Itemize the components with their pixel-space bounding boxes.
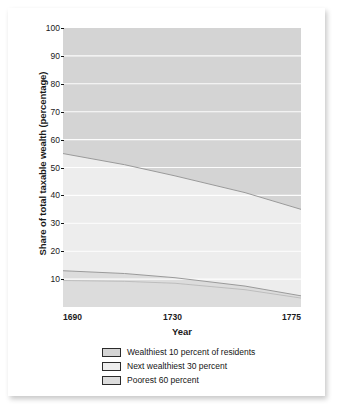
y-tick-label-20: 20 — [36, 247, 60, 256]
y-tick-mark-20 — [61, 251, 64, 252]
y-tick-mark-90 — [61, 56, 64, 57]
figure-card: Share of total taxable wealth (percentag… — [8, 8, 325, 396]
y-tick-label-60: 60 — [36, 136, 60, 145]
legend-item: Poorest 60 percent — [102, 374, 312, 387]
y-tick-label-10: 10 — [36, 275, 60, 284]
y-tick-mark-40 — [61, 195, 64, 196]
legend-item: Wealthiest 10 percent of residents — [102, 346, 312, 359]
legend-item: Next wealthiest 30 percent — [102, 360, 312, 373]
y-axis-ticks: 100908070605040302010 — [34, 28, 60, 307]
y-tick-label-100: 100 — [36, 24, 60, 33]
legend-label: Poorest 60 percent — [127, 376, 199, 385]
legend-swatch-icon — [102, 376, 121, 385]
y-tick-mark-60 — [61, 140, 64, 141]
y-tick-mark-50 — [61, 168, 64, 169]
y-tick-label-30: 30 — [36, 219, 60, 228]
legend-label: Wealthiest 10 percent of residents — [127, 348, 255, 357]
y-tick-mark-30 — [61, 223, 64, 224]
legend-swatch-icon — [102, 348, 121, 357]
x-axis-ticks: 169017301775 — [63, 310, 301, 324]
x-tick-label-1775: 1775 — [282, 312, 301, 322]
y-tick-mark-100 — [61, 28, 64, 29]
chart-plot-area — [63, 28, 301, 307]
x-tick-label-1690: 1690 — [63, 312, 82, 322]
y-tick-label-40: 40 — [36, 191, 60, 200]
x-tick-label-1730: 1730 — [163, 312, 182, 322]
y-tick-label-80: 80 — [36, 80, 60, 89]
legend-label: Next wealthiest 30 percent — [127, 362, 227, 371]
y-tick-mark-70 — [61, 112, 64, 113]
y-tick-label-70: 70 — [36, 108, 60, 117]
y-tick-mark-80 — [61, 84, 64, 85]
stacked-area-chart — [63, 28, 301, 307]
x-axis-title: Year — [63, 326, 301, 337]
chart-legend: Wealthiest 10 percent of residentsNext w… — [102, 346, 312, 388]
y-tick-mark-10 — [61, 279, 64, 280]
legend-swatch-icon — [102, 362, 121, 371]
y-tick-label-90: 90 — [36, 52, 60, 61]
y-tick-label-50: 50 — [36, 164, 60, 173]
